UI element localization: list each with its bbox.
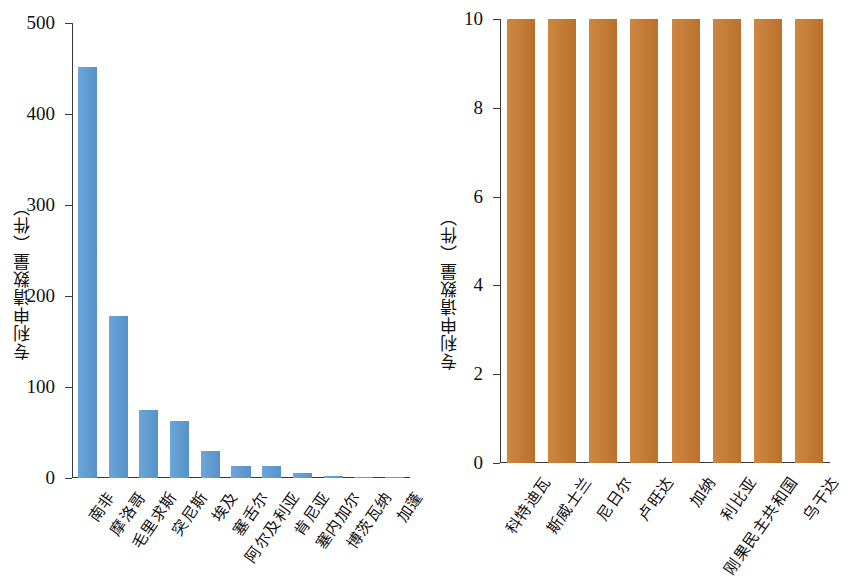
bar [385, 477, 404, 478]
y-tick-label: 6 [425, 186, 483, 208]
y-tick-label: 8 [425, 97, 483, 119]
y-tick-label: 400 [0, 103, 55, 125]
chart-panel-right: 专利申请数量（件） 0246810 科特迪瓦斯威士兰尼日尔卢旺达加纳利比亚刚果民… [425, 0, 850, 574]
bar [324, 476, 343, 478]
bar [262, 466, 281, 478]
y-tick-mark [493, 374, 500, 375]
bar [109, 316, 128, 478]
y-tick-label: 4 [425, 274, 483, 296]
y-tick-mark [65, 296, 72, 297]
x-category-label: 尼日尔 [591, 471, 637, 524]
bar [78, 67, 97, 478]
plot-area-right [500, 19, 830, 463]
bar [201, 451, 220, 478]
y-tick-label: 200 [0, 285, 55, 307]
chart-panel-left: 专利申请数量（件） 0100200300400500 南非摩洛哥毛里求斯突尼斯埃… [0, 0, 425, 574]
bar [231, 466, 250, 478]
y-tick-mark [493, 19, 500, 20]
bar [139, 410, 158, 478]
y-tick-label: 100 [0, 376, 55, 398]
x-category-label: 乌干达 [797, 471, 843, 524]
bar [507, 19, 535, 463]
y-tick-mark [493, 285, 500, 286]
y-tick-mark [65, 23, 72, 24]
y-tick-mark [493, 463, 500, 464]
y-tick-mark [493, 108, 500, 109]
bar [795, 19, 823, 463]
y-tick-mark [65, 478, 72, 479]
y-axis-title-right: 专利申请数量（件） [437, 140, 462, 370]
bar-series-right [500, 19, 830, 463]
y-tick-label: 10 [425, 8, 483, 30]
bar [170, 421, 189, 478]
bar [672, 19, 700, 463]
x-category-label: 加纳 [683, 471, 720, 511]
y-axis-title-left: 专利申请数量（件） [10, 130, 35, 360]
y-tick-label: 500 [0, 12, 55, 34]
bar [548, 19, 576, 463]
y-tick-mark [65, 205, 72, 206]
y-tick-label: 2 [425, 363, 483, 385]
bar-series-left [72, 23, 410, 478]
y-tick-label: 0 [425, 452, 483, 474]
bar [293, 473, 312, 478]
y-tick-label: 0 [0, 467, 55, 489]
plot-area-left [72, 23, 410, 478]
y-tick-mark [493, 197, 500, 198]
y-tick-label: 300 [0, 194, 55, 216]
bar [589, 19, 617, 463]
y-tick-mark [65, 114, 72, 115]
bar [630, 19, 658, 463]
bar [354, 477, 373, 478]
bar [713, 19, 741, 463]
y-tick-mark [65, 387, 72, 388]
x-category-label: 加蓬 [390, 486, 427, 526]
bar [754, 19, 782, 463]
x-category-label: 卢旺达 [632, 471, 678, 524]
